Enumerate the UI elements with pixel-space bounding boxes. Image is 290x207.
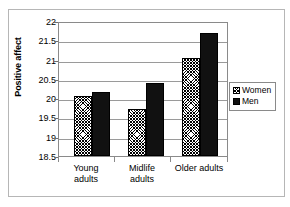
x-tick-start	[58, 157, 59, 162]
legend-label-men: Men	[242, 96, 259, 107]
x-tick-div-1	[114, 157, 115, 162]
y-tick-label-18-5: 18.5	[16, 152, 56, 162]
plot-area	[58, 22, 228, 157]
bar-men-midlife-adults	[146, 83, 164, 156]
legend-label-women: Women	[242, 85, 271, 96]
legend-item-men: Men	[233, 96, 273, 107]
bar-chart-figure: Positive affect 22 21.5 21 20.5 20 19.5 …	[0, 0, 290, 207]
bar-women-young-adults	[74, 96, 92, 156]
y-tick-label-20-5: 20.5	[16, 75, 56, 85]
y-tick-label-21-5: 21.5	[16, 36, 56, 46]
x-tick-div-2	[170, 157, 171, 162]
y-tick-label-21: 21	[16, 56, 56, 66]
bar-men-older-adults	[200, 33, 218, 156]
x-category-label-young-adults: Young adults	[58, 163, 114, 185]
women-swatch-icon	[233, 87, 240, 94]
bar-women-older-adults	[182, 58, 200, 156]
legend: Women Men	[229, 82, 276, 111]
y-tick-label-19-5: 19.5	[16, 113, 56, 123]
x-category-label-older-adults: Older adults	[170, 163, 228, 174]
x-tick-end	[227, 157, 228, 162]
y-tick-label-19: 19	[16, 133, 56, 143]
x-category-label-midlife-adults: Midlife adults	[114, 163, 170, 185]
men-swatch-icon	[233, 98, 240, 105]
y-tick-label-20: 20	[16, 94, 56, 104]
bar-men-young-adults	[92, 92, 110, 156]
legend-item-women: Women	[233, 85, 273, 96]
y-tick-label-22: 22	[16, 17, 56, 27]
bar-women-midlife-adults	[128, 109, 146, 156]
